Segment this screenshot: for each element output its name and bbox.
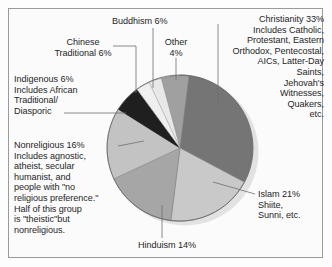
annotation-indigenous: Indigenous 6% Includes African Tradition…	[14, 74, 118, 116]
annotation-islam: Islam 21% Shiite, Sunni, etc.	[258, 189, 328, 221]
annotation-other: Other 4%	[156, 37, 196, 58]
plot-area: Christianity 33% Includes Catholic, Prot…	[0, 0, 332, 267]
annotation-hinduism: Hinduism 14%	[138, 240, 228, 251]
annotation-christianity: Christianity 33% Includes Catholic, Prot…	[208, 14, 324, 120]
annotation-nonreligious: Nonreligious 16% Includes agnostic, athe…	[14, 140, 122, 235]
annotation-buddhism: Buddhism 6%	[112, 16, 192, 27]
annotation-chinese-traditional: Chinese Traditional 6%	[38, 37, 128, 58]
pie-chart-figure: Christianity 33% Includes Catholic, Prot…	[0, 0, 332, 267]
